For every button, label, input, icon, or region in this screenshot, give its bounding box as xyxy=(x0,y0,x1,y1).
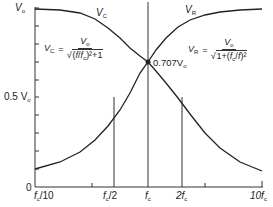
vr-curve-label: VR xyxy=(185,5,196,16)
vc-formula: VC = Vo √(f/fc)²+1 xyxy=(44,36,103,61)
crossover-point xyxy=(146,60,151,65)
y-label-half-vo: 0.5 Vo xyxy=(4,92,31,103)
x-label-2fc: 2fc xyxy=(176,191,187,202)
x-label-10fc: 10fc xyxy=(250,191,267,202)
y-axis-ticks xyxy=(35,8,39,169)
x-label-fc-over-10: fc/10 xyxy=(34,191,54,202)
x-label-fc-over-2: fc/2 xyxy=(103,191,117,202)
y-label-vo: Vo xyxy=(15,3,25,14)
chart-plot xyxy=(0,0,273,207)
y-label-zero: 0 xyxy=(26,183,32,193)
x-label-fc: fc xyxy=(145,191,151,202)
vr-formula: VR = Vo √1+(fc/f)² xyxy=(188,37,247,62)
crossover-label: 0.707Vo xyxy=(153,58,186,69)
vc-curve-label: VC xyxy=(96,8,107,19)
x-axis-ticks xyxy=(92,181,262,187)
